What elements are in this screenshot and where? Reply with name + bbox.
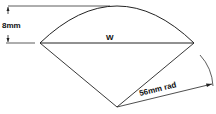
- chord-label: W: [106, 33, 114, 42]
- arrow-up-icon: [7, 7, 10, 11]
- left-radius-line: [40, 43, 117, 107]
- radius-label: 56mm rad: [138, 80, 177, 98]
- diagram-canvas: 8mm W 56mm rad: [0, 0, 216, 114]
- arrow-right-icon: [206, 84, 212, 88]
- segment-arc: [40, 6, 194, 43]
- arrow-down-icon: [7, 38, 10, 42]
- height-label: 8mm: [2, 21, 21, 30]
- segment-diagram: 8mm W 56mm rad: [0, 0, 216, 114]
- radius-arc: [200, 55, 213, 86]
